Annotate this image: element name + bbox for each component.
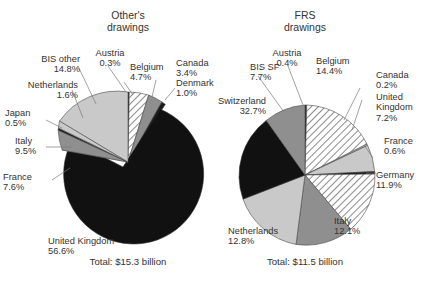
chart-title-left: Other's drawings: [78, 10, 178, 33]
label-right-netherlands: Netherlands 12.8%: [228, 226, 304, 247]
pie-chart-figure: Other's drawings FRS drawings Austria 0.…: [0, 0, 428, 303]
total-right: Total: $11.5 billion: [225, 256, 385, 267]
label-right-united-kingdom: United Kingdom 7.2%: [376, 92, 424, 123]
label-left-bis-other: BIS other 14.8%: [18, 54, 80, 75]
label-left-italy: Italy 9.5%: [15, 136, 59, 157]
label-left-austria: Austria 0.3%: [88, 48, 132, 69]
label-right-canada: Canada 0.2%: [376, 70, 426, 91]
label-left-netherlands: Netherlands 1.6%: [4, 80, 78, 101]
label-left-belgium: Belgium 4.7%: [130, 62, 178, 83]
label-right-germany: Germany 11.9%: [376, 170, 428, 191]
label-left-france: France 7.6%: [3, 172, 55, 193]
label-right-bis-sf: BIS SF 7.7%: [250, 62, 296, 83]
label-left-canada: Canada 3.4%: [176, 58, 222, 79]
label-left-united-kingdom: United Kingdom 56.6%: [48, 236, 158, 257]
label-right-italy: Italy 12.1%: [334, 216, 380, 237]
label-right-belgium: Belgium 14.4%: [316, 56, 366, 77]
chart-title-right: FRS drawings: [255, 10, 355, 33]
label-right-switzerland: Switzerland 32.7%: [204, 96, 266, 117]
label-right-france: France 0.6%: [384, 136, 428, 157]
total-left: Total: $15.3 billion: [48, 256, 208, 267]
label-left-japan: Japan 0.5%: [5, 108, 51, 129]
